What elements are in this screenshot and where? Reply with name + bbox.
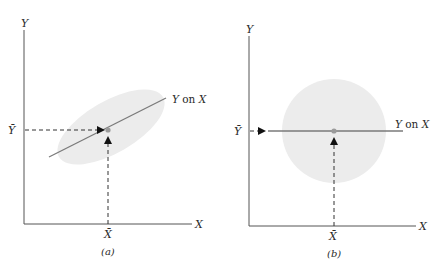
x-mean-label: X̄ bbox=[103, 228, 113, 241]
panel-caption: (b) bbox=[327, 248, 341, 259]
x-mean-label: X̄ bbox=[328, 230, 338, 243]
y-mean-label: Ȳ bbox=[234, 125, 243, 138]
mean-point bbox=[105, 127, 110, 132]
panel-caption: (a) bbox=[101, 246, 115, 257]
mean-point bbox=[331, 128, 336, 133]
y-axis-label: Y bbox=[21, 17, 30, 30]
panel-b: Y X Ȳ X̄ Y on X (b) bbox=[234, 23, 430, 259]
panel-a: Y X Ȳ X̄ Y on X (a) bbox=[8, 17, 207, 257]
regression-diagram: Y X Ȳ X̄ Y on X (a) Y X Ȳ X̄ Y on X (b) bbox=[0, 0, 444, 268]
y-mean-label: Ȳ bbox=[8, 124, 17, 137]
scatter-region-ellipse bbox=[46, 74, 176, 179]
regression-label: Y on X bbox=[395, 118, 430, 130]
y-axis-label: Y bbox=[246, 23, 255, 36]
x-axis-label: X bbox=[194, 218, 204, 231]
regression-label: Y on X bbox=[172, 93, 207, 105]
x-axis-label: X bbox=[418, 220, 428, 233]
